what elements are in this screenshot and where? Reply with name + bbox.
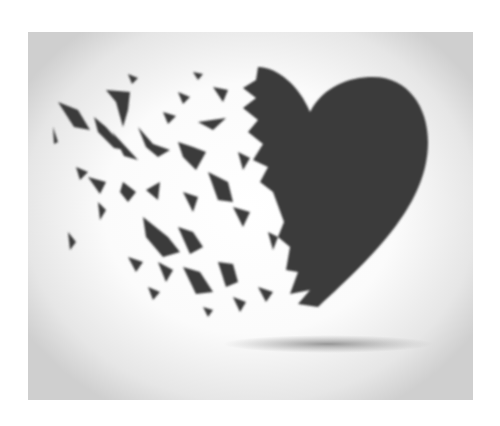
floor-shadow bbox=[223, 335, 433, 353]
broken-heart-image bbox=[28, 32, 473, 400]
broken-heart-illustration bbox=[28, 32, 473, 400]
heart-shape bbox=[243, 67, 428, 307]
